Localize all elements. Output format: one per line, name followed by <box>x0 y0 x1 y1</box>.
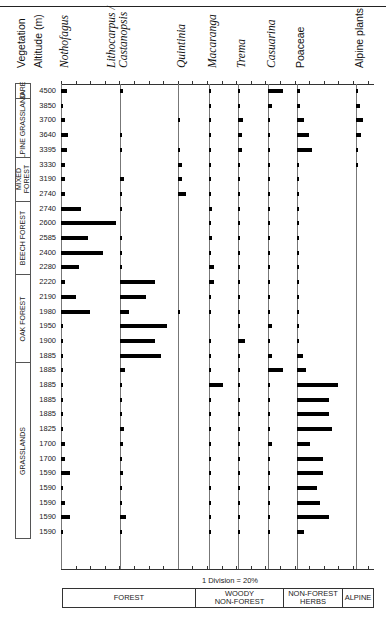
bar <box>209 163 211 167</box>
bar <box>120 501 122 505</box>
bar <box>268 412 270 416</box>
bar <box>268 442 272 446</box>
bar <box>238 265 240 269</box>
bar <box>268 221 270 225</box>
bar <box>120 310 129 314</box>
bar <box>120 515 126 519</box>
zone-alpine-grassland: ALPINE GRASSLAND <box>15 98 31 157</box>
altitude-label: 4500 <box>32 87 56 95</box>
bar <box>120 339 155 343</box>
bar <box>209 133 211 137</box>
altitude-label: 2740 <box>32 190 56 198</box>
bar <box>297 295 299 299</box>
column-header-line: Nothofagus <box>58 15 70 68</box>
column-header-line: Castanopsis <box>117 6 129 68</box>
top-rule <box>0 6 386 7</box>
bar <box>268 427 270 431</box>
bar <box>297 192 299 196</box>
bar <box>268 530 270 534</box>
bar <box>61 339 63 343</box>
legend-woody-line2: NON-FOREST <box>215 598 265 606</box>
altitude-label: 3190 <box>32 175 56 183</box>
altitude-label: 3700 <box>32 116 56 124</box>
legend-forest: FOREST <box>62 588 196 608</box>
bar <box>209 89 211 93</box>
zone-label: OAK FOREST <box>19 296 27 341</box>
bar <box>238 457 240 461</box>
bar <box>268 148 270 152</box>
bar <box>61 118 65 122</box>
bar <box>268 280 270 284</box>
bar <box>61 515 70 519</box>
bar <box>209 427 211 431</box>
bar <box>120 265 122 269</box>
altitude-label: 1700 <box>32 455 56 463</box>
altitude-label: 1825 <box>32 425 56 433</box>
bar <box>209 118 211 122</box>
legend-forest-label: FOREST <box>114 594 144 602</box>
bar <box>120 427 124 431</box>
zone-mixed-forest: MIXEDFOREST <box>15 157 31 201</box>
axis-tick <box>309 566 310 570</box>
bar <box>297 354 303 358</box>
column-header-casuarina: Casuarina <box>265 19 277 68</box>
bar <box>297 118 304 122</box>
bar <box>268 207 270 211</box>
axis-tick <box>251 566 252 570</box>
altitude-label: 1700 <box>32 440 56 448</box>
axis-tick <box>295 566 296 570</box>
bar <box>297 104 300 108</box>
bar <box>209 530 211 534</box>
bar <box>268 118 270 122</box>
bar <box>238 133 242 137</box>
column-header-line: Casuarina <box>265 19 277 68</box>
axis-tick <box>90 81 91 85</box>
bar <box>297 486 317 490</box>
bar <box>209 236 212 240</box>
bar <box>238 192 240 196</box>
bar <box>120 398 122 402</box>
column-header-lithocarpus-castanopsis: Lithocarpus /Castanopsis <box>105 6 129 68</box>
column-header-poaceae: Poaceae <box>294 27 306 68</box>
bar <box>209 280 214 284</box>
bar <box>268 236 270 240</box>
axis-tick <box>207 81 208 85</box>
bar <box>120 368 125 372</box>
altitude-label: 3330 <box>32 161 56 169</box>
altitude-label: 1590 <box>32 499 56 507</box>
bar <box>238 118 243 122</box>
bar <box>356 148 358 152</box>
bar <box>297 383 338 387</box>
bar <box>120 207 122 211</box>
bar <box>268 486 270 490</box>
bar <box>61 265 79 269</box>
bar <box>209 251 211 255</box>
bar <box>356 133 361 137</box>
bar <box>268 515 270 519</box>
bar <box>178 148 180 152</box>
axis-tick <box>353 81 354 85</box>
bar <box>268 192 270 196</box>
bar <box>297 221 299 225</box>
bar <box>297 339 299 343</box>
bar <box>209 221 211 225</box>
bar <box>268 265 270 269</box>
bar <box>238 398 240 402</box>
bar <box>238 104 240 108</box>
bar <box>297 412 329 416</box>
bar <box>297 236 299 240</box>
bar <box>297 163 299 167</box>
bar <box>238 236 240 240</box>
axis-tick <box>280 81 281 85</box>
column-header-line: Trema <box>235 39 247 68</box>
axis-tick <box>134 566 135 570</box>
bar <box>268 310 270 314</box>
bar <box>61 177 65 181</box>
axis-tick <box>338 566 339 570</box>
bar <box>209 295 211 299</box>
bar <box>120 192 122 196</box>
bar <box>120 295 146 299</box>
bar <box>356 89 358 93</box>
bar <box>238 515 240 519</box>
bar <box>238 280 240 284</box>
